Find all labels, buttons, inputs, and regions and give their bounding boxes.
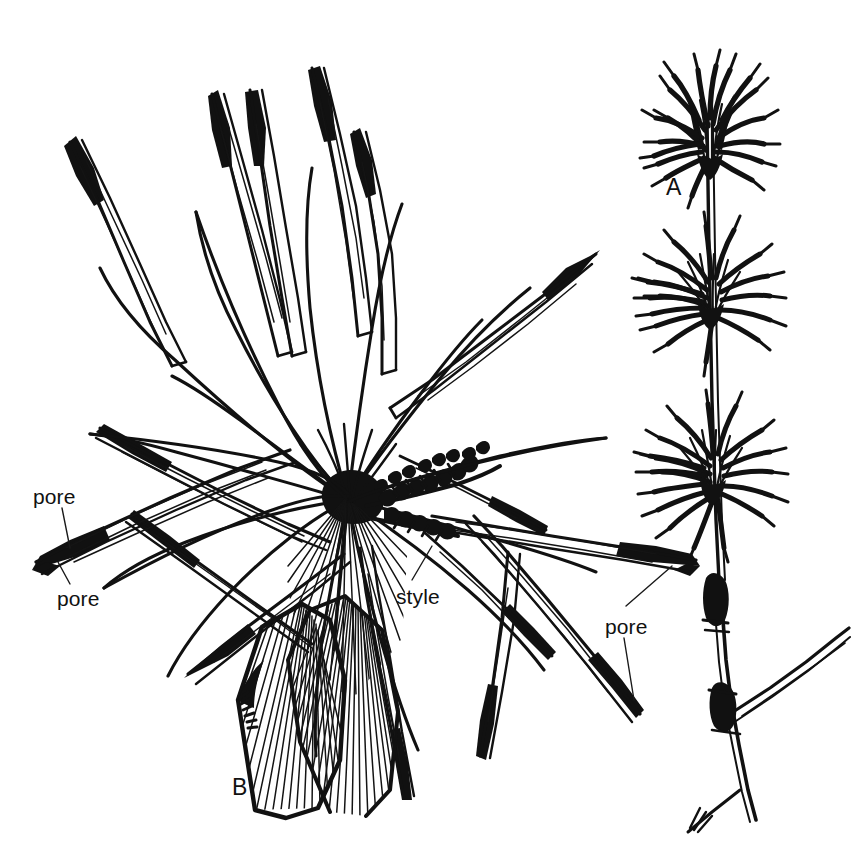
panel-a-whorl-top [640,50,780,208]
illustration-canvas [0,0,854,849]
callout-style: style [396,586,440,607]
anther [390,250,600,418]
panel-a-stem [688,120,850,832]
panel-label-b: B [232,776,248,799]
panel-a-plant [632,50,850,832]
leader-pore-right-upper [626,566,672,606]
anther [245,90,306,356]
panel-b-floret [32,66,700,822]
figure-root: pore pore style pore A B [0,0,854,849]
anther [308,66,372,336]
callout-pore-lower-left: pore [57,588,99,609]
leader-pore-lower-left [58,562,70,584]
panel-label-a: A [666,176,682,199]
callout-pore-right: pore [605,616,647,637]
callout-leaders [58,508,672,700]
panel-a-whorl-lower [634,390,788,562]
callout-pore-upper-left: pore [33,486,75,507]
anther-pore-right-upper [428,516,700,576]
anther [476,552,520,760]
panel-b-anthers [32,66,700,800]
caption-strip [0,840,854,849]
leader-pore-upper-left [62,508,70,548]
anther [64,136,186,366]
